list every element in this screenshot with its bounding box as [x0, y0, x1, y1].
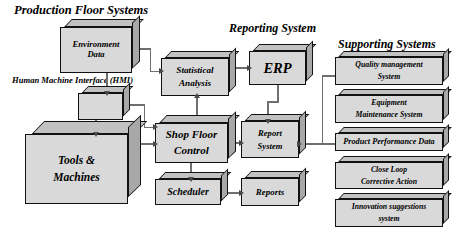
- node-report-system[interactable]: Report System: [241, 121, 299, 158]
- node-report-system-face: Report System: [241, 121, 299, 158]
- group-header-supporting-systems: Supporting Systems: [338, 38, 436, 50]
- node-environment-data-side: [132, 15, 140, 69]
- node-innovation-suggestions-system[interactable]: Innovation suggestions system: [335, 199, 443, 227]
- arrowhead-shop-floor-control-to-report-system: [239, 140, 244, 146]
- arrowhead-shop-floor-control-to-scheduler: [188, 177, 194, 182]
- node-innovation-suggestions-system-label: Innovation suggestions system: [350, 201, 429, 224]
- supporting-systems-bus: [322, 75, 324, 143]
- node-hmi-side: [123, 83, 130, 117]
- node-equipment-maintenance-system-side: [443, 86, 449, 120]
- node-report-system-side: [299, 111, 306, 155]
- node-reports-side: [299, 168, 306, 203]
- node-statistical-analysis-face: Statistical Analysis: [161, 58, 229, 96]
- arrowhead-tools-and-machines-to-shop-floor-control: [153, 141, 158, 147]
- arrowhead-hmi-to-tools-and-machines: [93, 132, 99, 137]
- node-shop-floor-control-side: [228, 111, 236, 159]
- node-erp-side: [306, 41, 313, 82]
- node-quality-management-system-side: [443, 48, 449, 82]
- edge-bus-to-product-performance-data: [322, 143, 336, 145]
- node-scheduler-side: [221, 169, 228, 202]
- arrowhead-report-system-bus: [297, 141, 302, 147]
- arrowhead-hmi-to-shop-floor-control: [153, 124, 158, 130]
- node-hmi-face: [78, 93, 123, 120]
- edge-bus-to-quality-management-system: [322, 75, 336, 77]
- arrowhead-statistical-analysis-to-erp: [247, 65, 252, 71]
- hmi-side-label: Human Machine Interface (HMI): [12, 75, 133, 86]
- node-shop-floor-control-face: Shop Floor Control: [155, 123, 228, 163]
- node-statistical-analysis-side: [229, 48, 236, 93]
- node-equipment-maintenance-system[interactable]: Equipment Maintenance System: [335, 95, 443, 123]
- node-product-performance-data-side: [443, 124, 449, 148]
- node-erp-face: ERP: [249, 51, 306, 85]
- arrowhead-environment-data-to-hmi: [104, 91, 110, 96]
- node-product-performance-data[interactable]: Product Performance Data: [335, 133, 443, 151]
- node-quality-management-system-face: Quality management System: [335, 57, 443, 85]
- group-header-production-floor-systems: Production Floor Systems: [14, 4, 148, 17]
- node-reports-label: Reports: [254, 187, 287, 197]
- edge-environment-data-to-statistical-analysis-v: [150, 48, 152, 72]
- node-tools-and-machines-face: Tools & Machines: [25, 134, 128, 204]
- node-environment-data[interactable]: Environment Data: [60, 27, 132, 73]
- node-quality-management-system[interactable]: Quality management System: [335, 57, 443, 85]
- node-erp[interactable]: ERP: [249, 51, 306, 85]
- arrowhead-erp-to-report-system: [265, 119, 271, 124]
- node-product-performance-data-face: Product Performance Data: [335, 133, 443, 151]
- node-close-loop-corrective-action-label: Close Loop Corrective Action: [359, 164, 419, 187]
- node-close-loop-corrective-action-side: [443, 153, 449, 186]
- node-scheduler-face: Scheduler: [155, 179, 221, 205]
- node-environment-data-face: Environment Data: [60, 27, 132, 73]
- arrowhead-environment-data-to-statistical-analysis: [159, 68, 164, 74]
- node-environment-data-label: Environment Data: [71, 40, 122, 60]
- node-innovation-suggestions-system-face: Innovation suggestions system: [335, 199, 443, 227]
- group-header-reporting-system: Reporting System: [229, 22, 316, 34]
- node-shop-floor-control-label: Shop Floor Control: [164, 127, 220, 159]
- node-equipment-maintenance-system-label: Equipment Maintenance System: [354, 97, 425, 120]
- node-product-performance-data-label: Product Performance Data: [341, 137, 436, 146]
- node-erp-label: ERP: [261, 60, 293, 77]
- node-tools-and-machines-side: [128, 115, 141, 198]
- edge-erp-to-report-system-v1: [277, 85, 279, 102]
- arrowhead-scheduler-to-reports: [239, 190, 244, 196]
- node-shop-floor-control[interactable]: Shop Floor Control: [155, 123, 228, 163]
- node-innovation-suggestions-system-side: [443, 190, 449, 224]
- node-scheduler[interactable]: Scheduler: [155, 179, 221, 205]
- node-reports-face: Reports: [241, 178, 299, 206]
- edge-erp-to-report-system-h: [268, 101, 279, 103]
- diagram-canvas: Production Floor Systems Reporting Syste…: [0, 0, 457, 238]
- node-equipment-maintenance-system-face: Equipment Maintenance System: [335, 95, 443, 123]
- node-scheduler-label: Scheduler: [165, 186, 211, 198]
- node-hmi[interactable]: [78, 93, 123, 120]
- arrowhead-shop-floor-control-to-statistical-analysis: [194, 93, 200, 98]
- node-statistical-analysis[interactable]: Statistical Analysis: [161, 58, 229, 96]
- node-tools-and-machines-label: Tools & Machines: [51, 152, 102, 187]
- node-reports[interactable]: Reports: [241, 178, 299, 206]
- node-close-loop-corrective-action-face: Close Loop Corrective Action: [335, 162, 443, 189]
- node-statistical-analysis-label: Statistical Analysis: [174, 64, 215, 91]
- node-quality-management-system-label: Quality management System: [353, 59, 424, 82]
- node-tools-and-machines[interactable]: Tools & Machines: [25, 134, 128, 204]
- node-report-system-label: Report System: [256, 127, 285, 153]
- node-close-loop-corrective-action[interactable]: Close Loop Corrective Action: [335, 162, 443, 189]
